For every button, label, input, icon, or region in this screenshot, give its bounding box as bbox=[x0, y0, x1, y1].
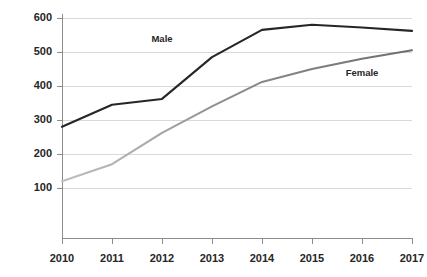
y-axis-label-300: 300 bbox=[34, 113, 52, 125]
x-axis-label-2011: 2011 bbox=[100, 252, 124, 264]
chart-background bbox=[0, 0, 427, 277]
x-axis-label-2013: 2013 bbox=[200, 252, 224, 264]
series-annotation-female: Female bbox=[346, 67, 379, 78]
y-axis-label-400: 400 bbox=[34, 79, 52, 91]
y-axis-label-600: 600 bbox=[34, 11, 52, 23]
y-axis-label-200: 200 bbox=[34, 147, 52, 159]
y-axis-label-500: 500 bbox=[34, 45, 52, 57]
x-axis-label-2016: 2016 bbox=[350, 252, 374, 264]
x-axis-label-2014: 2014 bbox=[250, 252, 275, 264]
x-axis-label-2012: 2012 bbox=[150, 252, 174, 264]
chart-canvas: 600 500 400 300 200 100 Male Female 2010… bbox=[0, 0, 427, 277]
x-axis-label-2010: 2010 bbox=[50, 252, 74, 264]
y-axis-label-100: 100 bbox=[34, 181, 52, 193]
series-annotation-male: Male bbox=[151, 33, 172, 44]
x-axis-label-2017: 2017 bbox=[400, 252, 424, 264]
line-chart: 600 500 400 300 200 100 Male Female 2010… bbox=[0, 0, 427, 277]
x-axis-label-2015: 2015 bbox=[300, 252, 324, 264]
